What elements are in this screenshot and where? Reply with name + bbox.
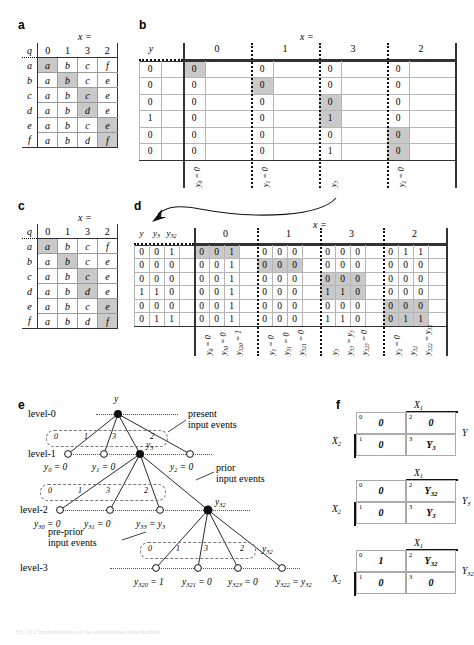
table-row: dabde	[22, 284, 118, 299]
column-variable-label: y3	[329, 180, 339, 186]
table-cell: 0	[272, 260, 287, 270]
kmap-cell: 10	[356, 434, 406, 456]
state-cell: c	[78, 299, 98, 314]
state-cell: c	[78, 118, 98, 133]
table-cell: 0	[387, 64, 409, 74]
table-row: cabce	[22, 88, 118, 103]
table-cell: 1	[224, 301, 239, 311]
grid-line-h	[134, 285, 446, 286]
table-cell: 0	[383, 274, 398, 284]
annotation-prior-events: prior input events	[216, 462, 265, 484]
kmap-cell: 3Y3	[406, 502, 456, 524]
leaf-value-label: y2 = 0	[170, 462, 193, 473]
panel-b-x-label: x =	[300, 31, 314, 42]
state-value-cell: 0	[134, 301, 149, 311]
state-cell: a	[38, 88, 58, 103]
table-cell: 0	[287, 274, 302, 284]
state-value-cell: 1	[149, 314, 164, 324]
y-value-cell: 1	[139, 113, 161, 123]
leaf-value-label: y33 = y3	[136, 519, 165, 530]
kmap-cell: 10	[356, 502, 406, 524]
state-value-cell: 0	[164, 274, 179, 284]
state-cell: a	[38, 133, 58, 148]
table-cell: 0	[335, 260, 350, 270]
column-variable-label: y320 = 1	[234, 329, 244, 354]
table-cell: 0	[287, 247, 302, 257]
state-value-cell: 0	[134, 274, 149, 284]
table-cell: 0	[251, 130, 273, 140]
column-variable-label: y2 = 0	[397, 167, 407, 187]
panel-d-karnaugh-table: yy3y320132001001000000011000001000000000…	[134, 228, 462, 346]
state-cell: e	[98, 88, 118, 103]
panel-a-x-label: x =	[78, 31, 92, 42]
panel-b-karnaugh-table: y0132000000000000000100100000000010y0 = …	[139, 43, 461, 193]
column-variable-label: y31 = 0	[282, 332, 292, 354]
column-variable-label: y322 = y32	[423, 324, 433, 354]
table-cell: 0	[398, 274, 413, 284]
table-cell: 1	[224, 287, 239, 297]
kmap-cell-value: 0	[407, 577, 455, 588]
table-cell: 0	[320, 274, 335, 284]
table-cell: 1	[224, 260, 239, 270]
state-cell: b	[58, 73, 78, 88]
grid-line-h	[134, 326, 446, 327]
table-cell: 0	[183, 64, 205, 74]
state-cell: e	[98, 284, 118, 299]
kmap-cell-value: 0	[357, 577, 405, 588]
state-cell: b	[58, 239, 78, 254]
column-header: 3	[78, 43, 98, 58]
state-cell: a	[38, 299, 58, 314]
state-cell: b	[58, 299, 78, 314]
column-variable-label: y30 = 0	[219, 332, 229, 354]
table-row: aabcf	[22, 58, 118, 73]
table-right-edge	[455, 43, 457, 188]
state-cell: d	[78, 314, 98, 329]
grid-line-v	[139, 61, 140, 160]
leaf-value-label: y322 = y32	[276, 577, 312, 588]
leaf-value-label: y0 = 0	[44, 462, 67, 473]
table-cell: 0	[272, 287, 287, 297]
table-cell: 0	[183, 80, 205, 90]
table-cell: 0	[257, 260, 272, 270]
kmap-cell-value: Y32	[407, 485, 455, 497]
group-header: 3	[320, 228, 383, 239]
edge-label: 1	[176, 544, 180, 553]
kmap-cell-value: 0	[357, 417, 405, 428]
table-cell: 0	[387, 130, 409, 140]
table-cell: 0	[209, 301, 224, 311]
table-cell: 1	[335, 287, 350, 297]
table-cell: 1	[413, 314, 428, 324]
leaf-value-label: y30 = 0	[34, 519, 61, 530]
edge-label: 3	[204, 544, 208, 553]
panel-e-event-tree: level-0level-1level-2level-3013201320132…	[0, 392, 330, 617]
column-variable-label: y33 = y3	[345, 330, 355, 355]
table-cell: 1	[319, 113, 341, 123]
table-cell: 0	[194, 274, 209, 284]
state-value-cell: 1	[164, 314, 179, 324]
table-cell: 0	[251, 97, 273, 107]
column-variable-label: y3	[330, 348, 340, 354]
table-cell: 0	[209, 260, 224, 270]
table-cell: 0	[272, 314, 287, 324]
state-cell: d	[78, 133, 98, 148]
table-cell: 0	[350, 274, 365, 284]
state-cell: c	[78, 88, 98, 103]
kmap-right-label: Y	[462, 428, 467, 438]
edge-label: 2	[144, 486, 148, 495]
table-cell: 0	[319, 80, 341, 90]
panel-a-state-table: q0132aabcfbabcecabcedabdeeabcefabdf	[22, 43, 118, 148]
table-cell: 0	[251, 64, 273, 74]
table-cell: 0	[320, 301, 335, 311]
row-header: b	[22, 254, 38, 269]
kmap-cell: 2Y32	[406, 480, 456, 502]
kmap-cell: 10	[356, 572, 406, 594]
leaf-value-label: y31 = 0	[84, 519, 111, 530]
table-cell: 0	[413, 301, 428, 311]
table-row: babce	[22, 254, 118, 269]
row-header: f	[22, 314, 38, 329]
state-cell: b	[58, 133, 78, 148]
table-cell: 0	[194, 287, 209, 297]
state-value-cell: 0	[149, 260, 164, 270]
table-cell: 0	[320, 247, 335, 257]
table-cell: 1	[224, 247, 239, 257]
